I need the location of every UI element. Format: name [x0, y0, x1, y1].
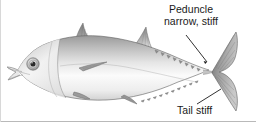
figure-left-border	[0, 0, 1, 122]
label-tail-stiff: Tail stiff	[177, 105, 212, 117]
label-peduncle-line2: narrow, stiff	[156, 16, 226, 28]
figure-bottom-border	[0, 121, 256, 122]
label-peduncle: Peduncle narrow, stiff	[156, 4, 226, 27]
label-peduncle-line1: Peduncle	[156, 4, 226, 16]
fish-eye	[27, 58, 39, 70]
tail-leader-line	[197, 89, 221, 104]
fish-diagram-figure: Peduncle narrow, stiff Tail stiff	[0, 0, 256, 122]
caudal-fin-lunate	[212, 32, 237, 111]
peduncle-leader-line	[186, 35, 207, 62]
